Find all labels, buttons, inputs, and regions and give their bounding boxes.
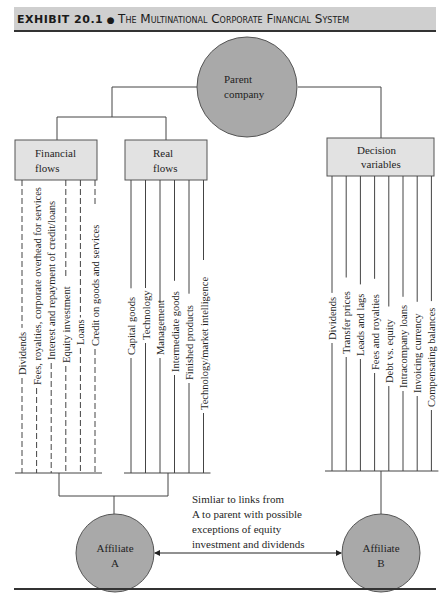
financial-flow-item-label: Fees, royalties, corporate overhead for … [32, 187, 43, 385]
parent-label-line2: company [224, 88, 265, 100]
real-flow-item-label: Technology [141, 290, 152, 340]
real-flow-item: Technology/market intelligence [199, 180, 210, 473]
financial-flows-box: Financial flows [15, 140, 97, 180]
link-note-line2: A to parent with possible [192, 508, 302, 520]
affiliate-a-line1: Affiliate [96, 542, 133, 554]
affiliate-b-node: Affiliate B [342, 514, 420, 592]
real-flow-item: Management [155, 180, 166, 473]
decision-variable-item: Invoicing currency [412, 176, 423, 471]
real-flow-item-label: Technology/market intelligence [199, 277, 210, 410]
decision-variable-item: Transfer prices [341, 176, 352, 471]
connector-financial-to-a [59, 473, 168, 496]
financial-flow-item-label: Interest and repayment of credit/loans [46, 201, 57, 360]
real-flow-item-label: Capital goods [126, 297, 137, 355]
decision-variables-items: DividendsTransfer pricesLeads and lagsFe… [325, 176, 438, 471]
decision-variable-item-label: Leads and lags [355, 294, 366, 356]
link-note-line3: exceptions of equity [192, 523, 282, 535]
real-flow-item: Finished products [184, 180, 195, 473]
financial-flow-item: Equity investment [61, 180, 72, 473]
bottom-rule [14, 588, 436, 590]
financial-flow-item: Dividends [17, 180, 28, 473]
financial-flows-line1: Financial [35, 147, 76, 159]
decision-variables-line1: Decision [357, 144, 397, 156]
decision-variable-item-label: Intracompany loans [398, 305, 409, 388]
parent-company-node: Parent company [197, 37, 297, 137]
affiliate-a-node: Affiliate A [76, 514, 154, 592]
financial-flow-item: Credit on goods and services [90, 180, 101, 473]
decision-variable-item-label: Fees and royalties [370, 294, 381, 370]
real-flows-line1: Real [153, 147, 173, 159]
real-flow-item-label: Management [155, 300, 166, 355]
financial-flow-item-label: Credit on goods and services [90, 225, 101, 346]
financial-system-diagram: Parent company Financial flows Real flow… [0, 0, 448, 602]
financial-flow-item-label: Equity investment [61, 286, 72, 363]
connector-parent-right [298, 87, 381, 138]
decision-variable-item-label: Invoicing currency [412, 313, 423, 393]
decision-variable-item: Intracompany loans [398, 176, 409, 471]
financial-flow-item: Interest and repayment of credit/loans [46, 180, 57, 473]
financial-flow-item: Loans [75, 180, 86, 473]
affiliate-a-line2: A [111, 557, 119, 569]
link-note-line1: Simliar to links from [192, 493, 284, 505]
real-flow-item: Intermediate goods [170, 180, 181, 473]
decision-variable-item: Compensating balances [426, 176, 437, 471]
decision-variable-item-label: Debt vs. equity [384, 318, 395, 383]
real-flows-line2: flows [153, 162, 177, 174]
link-note-line4: investment and dividends [192, 538, 304, 550]
financial-flows-line2: flows [35, 162, 59, 174]
parent-label-line1: Parent [224, 73, 252, 85]
affiliate-b-line2: B [377, 557, 384, 569]
decision-variable-item-label: Transfer prices [341, 291, 352, 354]
decision-variable-item: Dividends [327, 176, 338, 471]
decision-variables-line2: variables [361, 158, 401, 170]
decision-variable-item: Fees and royalties [370, 176, 381, 471]
connector-parent-left [57, 87, 197, 140]
real-flow-item: Capital goods [126, 180, 137, 473]
financial-flow-item-label: Dividends [17, 332, 28, 375]
affiliate-b-line1: Affiliate [362, 542, 399, 554]
decision-variable-item-label: Dividends [327, 297, 338, 340]
real-flows-box: Real flows [125, 140, 207, 180]
real-flow-item: Technology [141, 180, 152, 473]
financial-flow-item: Fees, royalties, corporate overhead for … [32, 180, 43, 473]
decision-variable-item: Leads and lags [355, 176, 366, 471]
financial-flow-item-label: Loans [75, 319, 86, 345]
real-flows-items: Capital goodsTechnologyManagementInterme… [124, 180, 211, 473]
link-note: Simliar to links from A to parent with p… [192, 493, 304, 550]
decision-variables-box: Decision variables [327, 138, 434, 176]
decision-variable-item-label: Compensating balances [426, 308, 437, 407]
real-flow-item-label: Intermediate goods [170, 291, 181, 372]
real-flow-item-label: Finished products [184, 305, 195, 380]
decision-variable-item: Debt vs. equity [384, 176, 395, 471]
financial-flows-items: DividendsFees, royalties, corporate over… [15, 180, 102, 473]
